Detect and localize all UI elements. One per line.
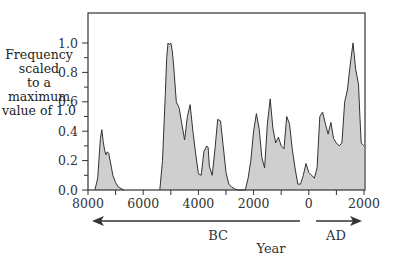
area-series (95, 43, 364, 190)
ad-arrow (316, 216, 362, 226)
x-tick-label: 8000 (72, 196, 104, 211)
y-axis-title-line-1: Frequency scaled (2, 48, 76, 76)
x-axis-title: Year (255, 241, 286, 256)
y-axis-title: Frequency scaled to a maximum value of 1… (2, 48, 76, 118)
x-axis: 800060004000200002000 (72, 190, 380, 211)
x-tick-label: 4000 (182, 196, 214, 211)
y-tick-label: 0.4 (58, 124, 78, 139)
x-tick-label: 6000 (127, 196, 159, 211)
y-tick-label: 0.2 (58, 153, 78, 168)
ad-label: AD (325, 228, 346, 243)
bc-arrow (92, 216, 300, 226)
y-axis-title-line-3: value of 1.0 (2, 104, 76, 118)
bc-label: BC (208, 228, 228, 243)
y-axis-title-line-2: to a maximum (2, 76, 76, 104)
x-tick-label: 2000 (238, 196, 270, 211)
x-tick-label: 0 (305, 196, 313, 211)
x-tick-label: 2000 (348, 196, 380, 211)
frequency-area-chart: 0.00.20.40.60.81.0 800060004000200002000… (0, 0, 393, 260)
